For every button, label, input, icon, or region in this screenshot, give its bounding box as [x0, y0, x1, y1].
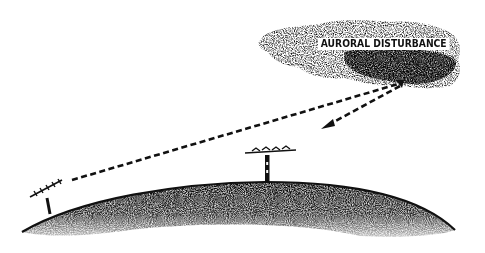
auroral-cloud: [259, 20, 460, 88]
reflected-path: [321, 80, 404, 129]
right-antenna: [245, 146, 296, 183]
incident-path: [72, 84, 398, 180]
left-antenna: [30, 179, 62, 214]
auroral-disturbance-label: AURORAL DISTURBANCE: [318, 38, 449, 50]
earth-surface: [22, 182, 455, 237]
arrowhead-icon: [321, 119, 335, 129]
